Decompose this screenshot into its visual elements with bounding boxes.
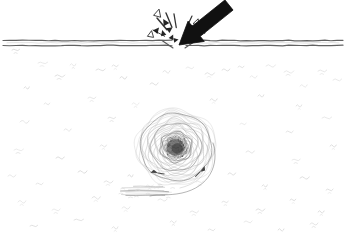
core-stipple xyxy=(172,147,173,148)
core-stipple xyxy=(170,151,171,152)
core-stipple xyxy=(176,153,177,154)
interface-line xyxy=(186,45,343,46)
core-stipple xyxy=(170,143,171,144)
core-stipple xyxy=(183,145,184,146)
core-stipple xyxy=(185,151,186,152)
core-stipple xyxy=(168,145,169,146)
vortex-core-nucleus xyxy=(172,143,183,153)
core-stipple xyxy=(170,137,171,138)
core-stipple xyxy=(180,138,181,139)
core-stipple xyxy=(171,147,172,148)
core-stipple xyxy=(168,152,169,153)
core-stipple xyxy=(175,153,176,154)
core-stipple xyxy=(173,145,174,146)
core-stipple xyxy=(182,142,183,143)
core-stipple xyxy=(178,138,180,140)
core-stipple xyxy=(178,143,179,144)
core-stipple xyxy=(179,151,180,152)
core-stipple xyxy=(174,154,175,155)
core-stipple xyxy=(183,154,184,155)
core-stipple xyxy=(169,144,170,145)
core-stipple xyxy=(176,148,177,149)
core-stipple xyxy=(175,148,176,149)
core-stipple xyxy=(177,156,178,157)
core-stipple xyxy=(184,146,185,147)
core-stipple xyxy=(170,140,171,141)
core-stipple xyxy=(169,153,170,154)
core-stipple xyxy=(182,140,183,141)
core-stipple xyxy=(178,147,179,148)
core-stipple xyxy=(175,136,177,138)
core-stipple xyxy=(178,141,179,142)
figure-canvas: Projectile impact through a horizontal i… xyxy=(0,0,346,238)
core-stipple xyxy=(180,145,181,146)
core-stipple xyxy=(180,142,181,143)
core-stipple xyxy=(172,150,173,151)
core-stipple xyxy=(174,147,175,148)
core-stipple xyxy=(178,138,179,139)
core-stipple xyxy=(178,151,179,152)
core-stipple xyxy=(177,147,178,148)
core-stipple xyxy=(181,152,182,153)
core-stipple xyxy=(175,140,176,141)
core-stipple xyxy=(181,148,182,149)
core-stipple xyxy=(182,155,184,157)
core-stipple xyxy=(171,152,172,153)
core-stipple xyxy=(180,157,181,158)
core-stipple xyxy=(186,143,187,144)
core-stipple xyxy=(171,138,172,139)
impact-vortex-illustration xyxy=(0,0,346,238)
interface-line xyxy=(186,40,343,41)
core-stipple xyxy=(180,140,181,141)
core-stipple xyxy=(175,157,176,158)
core-stipple xyxy=(184,149,185,150)
core-stipple xyxy=(181,146,182,147)
core-stipple xyxy=(187,148,188,149)
core-stipple xyxy=(174,155,175,156)
core-stipple xyxy=(173,141,174,142)
core-stipple xyxy=(186,150,187,151)
core-stipple xyxy=(169,145,170,146)
core-stipple xyxy=(170,145,171,146)
core-stipple xyxy=(176,150,177,151)
core-stipple xyxy=(179,149,180,150)
core-stipple xyxy=(179,141,180,142)
core-stipple xyxy=(182,150,183,151)
core-stipple xyxy=(165,145,166,146)
core-stipple xyxy=(165,146,166,147)
core-stipple xyxy=(181,143,182,144)
core-stipple xyxy=(168,155,169,156)
core-stipple xyxy=(183,143,184,144)
core-stipple xyxy=(166,151,167,152)
core-stipple xyxy=(167,144,168,145)
core-stipple xyxy=(174,145,175,146)
core-stipple xyxy=(183,138,185,140)
core-stipple xyxy=(168,146,169,147)
core-stipple xyxy=(185,140,186,141)
core-stipple xyxy=(171,145,172,146)
core-stipple xyxy=(167,154,169,156)
core-stipple xyxy=(172,143,173,144)
core-stipple xyxy=(182,145,183,146)
core-stipple xyxy=(184,152,185,153)
core-stipple xyxy=(167,149,168,150)
core-stipple xyxy=(187,147,188,148)
core-stipple xyxy=(173,137,174,138)
core-stipple xyxy=(180,155,181,156)
core-stipple xyxy=(174,157,175,158)
core-stipple xyxy=(175,143,176,144)
core-stipple xyxy=(184,147,185,148)
core-stipple xyxy=(186,149,187,150)
interface-line xyxy=(3,40,172,41)
core-stipple xyxy=(181,142,182,143)
interface-line xyxy=(3,45,172,46)
core-stipple xyxy=(166,143,167,144)
core-stipple xyxy=(186,141,187,142)
